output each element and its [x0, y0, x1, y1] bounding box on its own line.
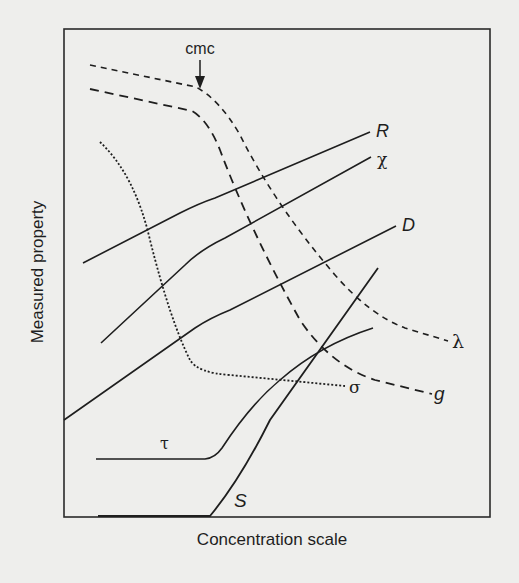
y-axis-label: Measured property — [28, 200, 47, 343]
curve-label-tau: τ — [160, 434, 169, 453]
diagram-page: cmc λ g σ R χ D τ S Concentration scale … — [0, 0, 519, 583]
curve-label-S: S — [234, 490, 247, 511]
curve-label-lambda: λ — [452, 330, 464, 352]
curve-chi — [101, 157, 371, 343]
cmc-label: cmc — [185, 40, 214, 57]
x-axis-label: Concentration scale — [197, 530, 347, 549]
curve-D — [64, 226, 396, 420]
curve-label-D: D — [402, 215, 415, 235]
cmc-arrow-icon — [195, 60, 205, 89]
curve-tau — [96, 328, 373, 459]
curve-label-R: R — [376, 121, 389, 141]
curve-lambda — [90, 65, 448, 341]
curve-sigma — [100, 142, 345, 386]
curve-R — [83, 132, 370, 263]
curve-label-sigma: σ — [349, 377, 361, 397]
plot-frame — [64, 29, 490, 517]
curve-label-g: g — [434, 383, 445, 404]
curve-label-chi: χ — [377, 149, 387, 169]
surfactant-property-diagram: cmc λ g σ R χ D τ S Concentration scale … — [0, 0, 519, 583]
